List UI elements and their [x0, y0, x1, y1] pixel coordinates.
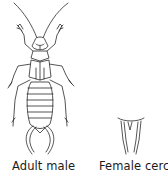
right-middle-leg: [49, 64, 74, 86]
left-antenna: [14, 3, 37, 38]
left-front-leg: [18, 24, 34, 52]
adult-male-earwig-drawing: [8, 3, 74, 154]
left-middle-leg: [8, 64, 31, 88]
abdomen: [27, 82, 53, 129]
female-cerci-label: Female cerci: [99, 159, 168, 173]
left-cercus: [121, 121, 128, 154]
male-forceps: [26, 126, 54, 154]
adult-male-label: Adult male: [12, 159, 75, 173]
female-cerci-drawing: [118, 118, 144, 154]
right-cercus: [134, 121, 141, 154]
right-antenna: [43, 3, 68, 38]
pronotum: [31, 51, 49, 61]
right-front-leg: [46, 24, 62, 52]
earwig-illustration: [0, 0, 168, 176]
